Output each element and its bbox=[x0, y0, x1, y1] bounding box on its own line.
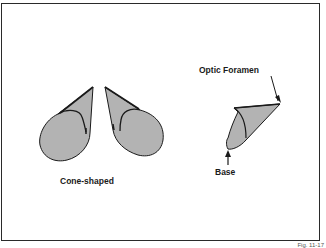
side-cone-shape bbox=[227, 104, 281, 149]
orbit-diagram bbox=[0, 0, 326, 248]
base-label: Base bbox=[215, 167, 235, 177]
figure-number: Fig. 11-17 bbox=[297, 242, 324, 248]
left-cone-shape bbox=[40, 87, 93, 161]
optic-foramen-arrow bbox=[271, 76, 281, 103]
optic-foramen-label: Optic Foramen bbox=[199, 65, 259, 75]
cone-shaped-label: Cone-shaped bbox=[60, 176, 114, 186]
base-arrow bbox=[225, 150, 231, 165]
right-cone-shape bbox=[105, 87, 163, 156]
